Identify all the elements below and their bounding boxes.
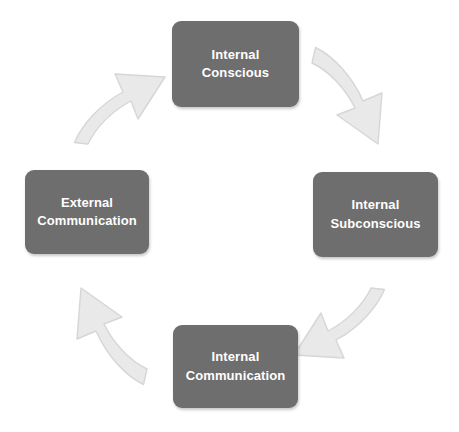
node-internal-communication[interactable]: Internal Communication <box>173 325 298 408</box>
cycle-diagram: Internal Conscious Internal Subconscious… <box>0 0 459 432</box>
node-internal-subconscious-label: Internal Subconscious <box>324 196 426 233</box>
node-external-communication[interactable]: External Communication <box>25 170 149 254</box>
arrow-top-to-right <box>312 48 382 145</box>
node-internal-communication-label: Internal Communication <box>180 348 292 385</box>
node-internal-subconscious[interactable]: Internal Subconscious <box>313 172 438 257</box>
node-external-communication-label: External Communication <box>31 194 143 231</box>
arrow-left-to-top <box>75 74 166 144</box>
arrow-bottom-to-left <box>77 288 147 385</box>
node-internal-conscious[interactable]: Internal Conscious <box>172 21 299 107</box>
node-internal-conscious-label: Internal Conscious <box>196 46 275 83</box>
arrow-right-to-bottom <box>294 288 385 358</box>
